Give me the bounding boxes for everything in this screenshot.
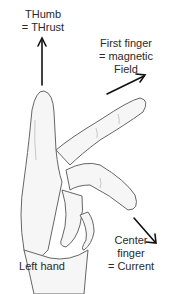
first-finger-shape [56, 98, 146, 165]
first-finger-label-line1: First finger [88, 37, 164, 50]
hand-label: Left hand [14, 260, 70, 273]
thumb-shape [21, 91, 62, 260]
field-arrow-icon [107, 76, 144, 94]
thumb-label: THumb = THrust [18, 8, 68, 34]
first-finger-label: First finger = magnetic Field [88, 37, 164, 76]
center-finger-label: Center finger = Current [104, 234, 158, 273]
first-finger-label-line2: = magnetic [88, 50, 164, 63]
thumb-label-line1: THumb [18, 8, 68, 21]
center-finger-label-line3: = Current [104, 260, 158, 273]
center-finger-label-line2: finger [104, 247, 158, 260]
thumb-label-line2: = THrust [18, 21, 68, 34]
center-finger-label-line1: Center [104, 234, 158, 247]
ring-finger-shape [61, 190, 83, 247]
first-finger-label-line3: Field [88, 63, 164, 76]
pinky-shape [80, 212, 94, 250]
